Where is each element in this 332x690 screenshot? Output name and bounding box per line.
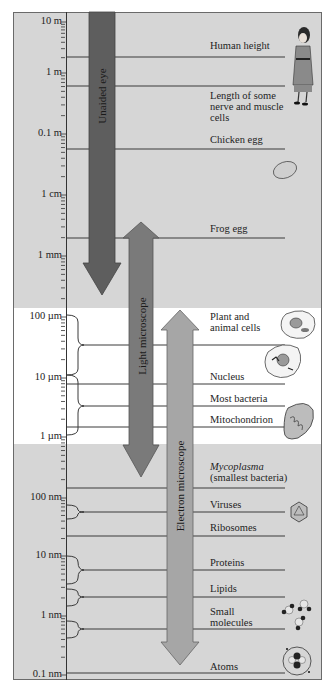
item-label-viruses: Viruses	[210, 499, 241, 510]
person-icon	[293, 27, 313, 106]
item-label-human-height: Human height	[210, 40, 270, 51]
item-label-most-bacteria: Most bacteria	[210, 393, 267, 404]
light-microscope-label: Light microscope	[136, 286, 148, 386]
item-label-small-molecules: Small molecules	[210, 606, 270, 628]
item-label-nucleus: Nucleus	[210, 371, 244, 382]
mycoplasma-sub: (smallest bacteria)	[210, 472, 287, 483]
range-braces	[67, 315, 84, 638]
mitochondrion-icon	[284, 403, 313, 439]
item-label-mycoplasma: Mycoplasma(smallest bacteria)	[210, 461, 287, 483]
molecules-icon	[282, 600, 312, 630]
item-label-nerve-cells: Length of some nerve and muscle cells	[210, 90, 290, 123]
item-label-mitochondrion: Mitochondrion	[210, 414, 273, 425]
egg-icon	[271, 158, 299, 181]
item-label-atoms: Atoms	[210, 661, 238, 672]
unaided-eye-label: Unaided eye	[96, 51, 108, 141]
electron-microscope-label: Electron microscope	[174, 431, 186, 541]
plant-cell-icon	[281, 311, 315, 339]
mycoplasma-name: Mycoplasma	[210, 461, 264, 472]
item-label-chicken-egg: Chicken egg	[210, 134, 263, 145]
item-label-lipids: Lipids	[210, 583, 237, 594]
item-label-plant-animal-cells: Plant and animal cells	[210, 311, 270, 333]
minor-ticks	[61, 22, 67, 675]
item-label-frog-egg: Frog egg	[210, 223, 248, 234]
item-label-ribosomes: Ribosomes	[210, 522, 257, 533]
animal-cell-icon	[265, 345, 301, 378]
item-label-proteins: Proteins	[210, 557, 244, 568]
virus-icon	[291, 502, 307, 522]
atom-icon	[283, 647, 311, 675]
